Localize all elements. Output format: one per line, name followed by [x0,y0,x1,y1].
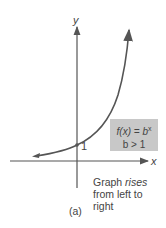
caption-line-2: from left to [93,188,147,200]
formula-fx: f(x) [117,126,131,137]
x-axis-label: x [151,155,157,167]
formula-exponent: x [148,125,152,132]
caption-emphasis: rises [125,176,147,188]
figure-label: (a) [69,205,82,217]
formula-box: f(x) = bx b > 1 [110,119,158,151]
formula-eq: = b [131,126,148,137]
graph-description: Graph rises from left to right [93,176,147,212]
left-arrowhead [32,153,40,158]
formula-condition: b > 1 [110,138,158,151]
caption-text: Graph [93,176,125,188]
caption-line-3: right [93,200,147,212]
y-axis-label: y [73,14,79,26]
formula-line: f(x) = bx [110,122,158,138]
intercept-label: 1 [81,140,87,152]
intercept-point [75,143,79,147]
